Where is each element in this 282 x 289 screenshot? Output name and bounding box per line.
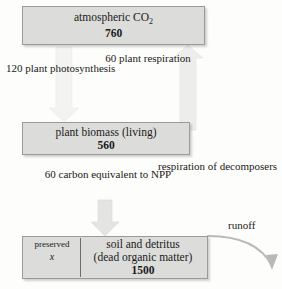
npp-value: 60 [45, 168, 56, 180]
preserved-value: x [25, 251, 79, 262]
photosynthesis-value: 120 [6, 62, 23, 74]
soil-line2: (dead organic matter) [81, 251, 205, 264]
npp-line1: carbon equivalent [59, 168, 138, 180]
flux-label-npp: 60 carbon equivalent to NPP [40, 168, 176, 181]
atmosphere-label: atmospheric CO2 [74, 11, 153, 27]
decomposers-line2: decomposers [220, 160, 277, 172]
soil-value: 1500 [81, 264, 205, 277]
photosynthesis-line1: plant [25, 62, 47, 74]
decomposers-line1: respiration of [158, 160, 217, 172]
carbon-cycle-diagram: atmospheric CO2 760 120 plant photosynth… [0, 0, 282, 289]
reservoir-box-soil-detritus: preserved x soil and detritus (dead orga… [22, 236, 208, 279]
biomass-label: plant biomass (living) [56, 126, 157, 139]
atmosphere-label-subscript: 2 [149, 17, 153, 26]
preserved-carbon-cell: preserved x [25, 240, 79, 262]
runoff-label: runoff [228, 219, 255, 231]
reservoir-box-plant-biomass: plant biomass (living) 560 [22, 122, 190, 155]
flux-label-decomposer-respiration: respiration of decomposers [158, 160, 268, 173]
npp-arrow-icon [91, 200, 119, 236]
soil-line1: soil and detritus [81, 238, 205, 251]
photosynthesis-arrow-icon [49, 47, 79, 122]
runoff-arrow-icon [208, 236, 278, 270]
plant-respiration-line2: respiration [144, 52, 191, 64]
preserved-label: preserved [25, 240, 79, 250]
soil-main-text: soil and detritus (dead organic matter) … [81, 238, 205, 277]
plant-respiration-value: 60 [105, 52, 116, 64]
plant-respiration-line1: plant [119, 52, 141, 64]
atmosphere-label-text: atmospheric CO [74, 11, 149, 23]
reservoir-box-atmosphere: atmospheric CO2 760 [22, 6, 205, 45]
flux-label-plant-respiration: 60 plant respiration [105, 52, 191, 65]
atmosphere-value: 760 [105, 27, 122, 40]
flux-label-photosynthesis: 120 plant photosynthesis [6, 62, 114, 75]
biomass-value: 560 [97, 139, 114, 152]
flux-label-runoff: runoff [228, 219, 278, 232]
